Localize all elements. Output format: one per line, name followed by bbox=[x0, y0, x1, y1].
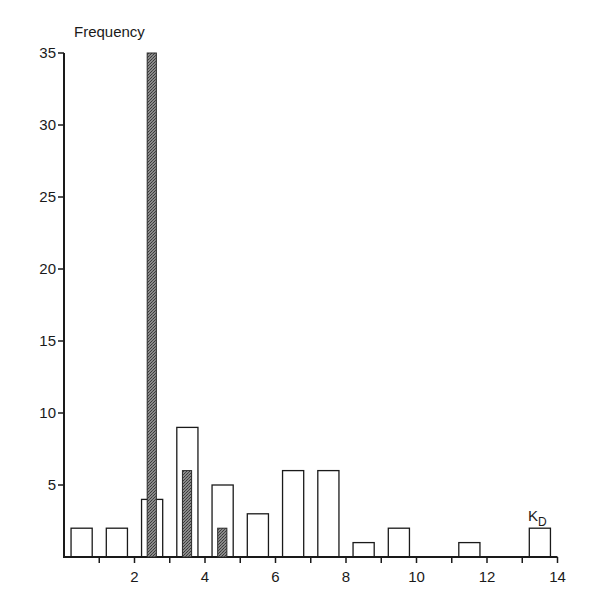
histogram-bar-open bbox=[247, 514, 268, 557]
histogram-bar-shaded bbox=[218, 528, 227, 557]
y-tick-label: 35 bbox=[39, 44, 56, 61]
y-tick-label: 10 bbox=[39, 404, 56, 421]
x-axis-label-main: K bbox=[528, 507, 538, 524]
y-tick-label: 25 bbox=[39, 188, 56, 205]
x-tick-label: 14 bbox=[549, 568, 566, 585]
histogram-bar-open bbox=[106, 528, 127, 557]
histogram-bar-open bbox=[283, 471, 304, 557]
y-tick-label: 5 bbox=[48, 476, 56, 493]
histogram-bar-open bbox=[388, 528, 409, 557]
x-axis-label-subscript: D bbox=[538, 515, 547, 529]
histogram-chart: Frequency 5101520253035 2468101214 KD bbox=[0, 0, 594, 604]
histogram-bar-open bbox=[529, 528, 550, 557]
histogram-bar-shaded bbox=[147, 53, 156, 557]
histogram-bar-open bbox=[318, 471, 339, 557]
histogram-bar-open bbox=[71, 528, 92, 557]
x-tick-label: 8 bbox=[342, 568, 350, 585]
x-tick-label: 10 bbox=[408, 568, 425, 585]
x-axis: 2468101214 bbox=[63, 557, 566, 585]
y-tick-label: 20 bbox=[39, 260, 56, 277]
y-axis: 5101520253035 bbox=[39, 44, 64, 557]
y-tick-label: 15 bbox=[39, 332, 56, 349]
x-axis-label: KD bbox=[528, 507, 547, 529]
x-tick-label: 4 bbox=[201, 568, 209, 585]
shaded-bars bbox=[147, 53, 227, 557]
x-tick-label: 6 bbox=[271, 568, 279, 585]
x-tick-label: 12 bbox=[479, 568, 496, 585]
open-bars bbox=[71, 427, 550, 557]
histogram-bar-shaded bbox=[182, 471, 191, 557]
histogram-bar-open bbox=[459, 543, 480, 557]
y-axis-label: Frequency bbox=[74, 23, 145, 40]
histogram-bar-open bbox=[353, 543, 374, 557]
y-tick-label: 30 bbox=[39, 116, 56, 133]
x-tick-label: 2 bbox=[130, 568, 138, 585]
